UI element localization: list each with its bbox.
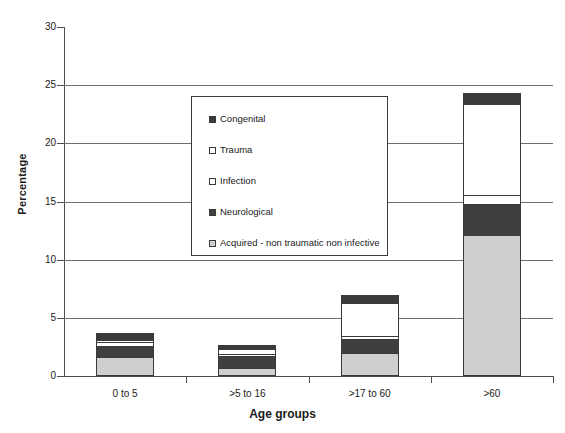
x-axis-tick-label: >60 <box>432 388 552 399</box>
x-tick <box>553 377 554 383</box>
bar-segment-neurological <box>463 204 521 235</box>
x-axis-tick-label: >5 to 16 <box>187 388 307 399</box>
bar-segment-neurological <box>218 356 276 368</box>
x-axis-tick-label: >17 to 60 <box>310 388 430 399</box>
bar-segment-acquired-non-traumatic-non-infective <box>218 368 276 376</box>
bar-segment-neurological <box>96 346 154 358</box>
bar-segment-trauma <box>463 104 521 195</box>
bar-segment-congenital <box>341 295 399 303</box>
x-tick <box>431 377 432 383</box>
legend-label: Neurological <box>220 207 273 217</box>
legend-label: Congenital <box>220 114 265 124</box>
legend-label: Acquired - non traumatic non infective <box>220 238 379 248</box>
y-axis-tick-label: 15 <box>10 197 56 207</box>
bar-segment-trauma <box>341 303 399 336</box>
x-tick <box>186 377 187 383</box>
bar--5-to-16 <box>218 345 276 376</box>
bar--17-to-60 <box>341 295 399 376</box>
legend-swatch-icon <box>209 240 216 247</box>
y-axis-tick-label: 25 <box>10 80 56 90</box>
x-tick <box>309 377 310 383</box>
legend-label: Trauma <box>220 145 252 155</box>
legend-item-congenital: Congenital <box>209 113 265 125</box>
bar-segment-acquired-non-traumatic-non-infective <box>96 357 154 376</box>
legend: CongenitalTraumaInfectionNeurologicalAcq… <box>191 96 388 256</box>
legend-swatch-icon <box>209 116 216 123</box>
gridline-25 <box>64 85 553 86</box>
legend-swatch-icon <box>209 209 216 216</box>
y-tick-10 <box>57 260 64 261</box>
legend-label: Infection <box>220 176 256 186</box>
bar-segment-congenital <box>96 333 154 340</box>
y-axis-tick-label: 10 <box>10 255 56 265</box>
y-axis-tick-label: 5 <box>10 313 56 323</box>
legend-swatch-icon <box>209 147 216 154</box>
legend-swatch-icon <box>209 178 216 185</box>
bar--60 <box>463 93 521 376</box>
y-tick-5 <box>57 318 64 319</box>
bar-segment-congenital <box>463 93 521 104</box>
stacked-bar-chart: Percentage 051015202530 0 to 5>5 to 16>1… <box>0 0 565 433</box>
y-tick-30 <box>57 27 64 28</box>
y-tick-20 <box>57 143 64 144</box>
x-axis-tick-label: 0 to 5 <box>65 388 185 399</box>
y-axis-tick-label: 0 <box>10 371 56 381</box>
legend-item-acquired-non-traumatic-non-infective: Acquired - non traumatic non infective <box>209 237 379 249</box>
bar-segment-neurological <box>341 339 399 353</box>
y-tick-0 <box>57 376 64 377</box>
bar-segment-infection <box>463 195 521 204</box>
x-axis-title: Age groups <box>0 407 565 421</box>
y-axis-tick-label: 20 <box>10 138 56 148</box>
y-tick-25 <box>57 85 64 86</box>
bar-segment-acquired-non-traumatic-non-infective <box>463 235 521 376</box>
bar-0-to-5 <box>96 333 154 376</box>
legend-item-neurological: Neurological <box>209 206 273 218</box>
bar-segment-acquired-non-traumatic-non-infective <box>341 353 399 376</box>
y-tick-15 <box>57 202 64 203</box>
y-axis-tick-label: 30 <box>10 22 56 32</box>
legend-item-trauma: Trauma <box>209 144 252 156</box>
legend-item-infection: Infection <box>209 175 256 187</box>
